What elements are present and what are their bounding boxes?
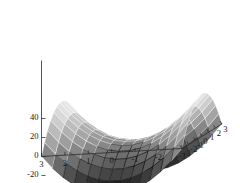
surface-plot-figure: 40200-20-403210-1-2-3-3-2-10123 <box>0 0 240 183</box>
x-tick-label: -2 <box>155 152 162 162</box>
x-tick-label: 3 <box>39 159 43 169</box>
y-tick-label: 2 <box>217 128 221 138</box>
x-tick-label: 1 <box>86 156 90 166</box>
z-tick-label: -20 <box>27 169 38 179</box>
z-tick-label: 40 <box>30 112 39 122</box>
y-tick-label: 3 <box>223 124 227 134</box>
z-tick-label: 0 <box>34 150 38 160</box>
y-tick-label: 1 <box>210 132 214 142</box>
plot-canvas: 40200-20-403210-1-2-3-3-2-10123 <box>0 0 240 183</box>
x-tick-label: 2 <box>63 158 67 168</box>
x-tick-label: 0 <box>110 155 114 165</box>
z-tick-label: 20 <box>30 131 39 141</box>
y-tick-label: 0 <box>203 136 207 146</box>
x-tick-label: -1 <box>132 154 139 164</box>
